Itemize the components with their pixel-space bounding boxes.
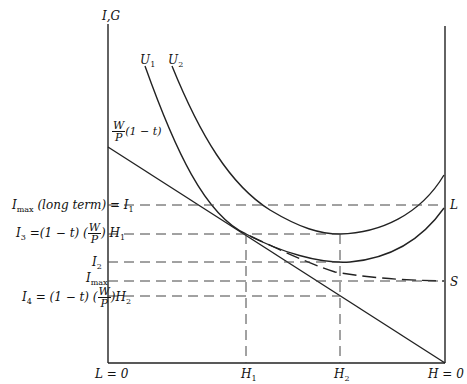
label-S: S [450,276,458,288]
indifference-curve-u1 [145,66,444,262]
y-axis-label: I,G [102,10,120,22]
u1-label: U1 [140,54,155,69]
label-h0: H = 0 [428,368,464,380]
label-l0: L = 0 [95,368,128,380]
u2-label: U2 [168,54,183,69]
label-h1: H1 [241,368,257,383]
indifference-curve-u2 [172,66,444,234]
diagram-canvas [0,0,467,384]
label-i2: I2 [92,256,102,271]
label-i4: I4 = (1 − t) (WP)H2 [22,286,131,309]
label-i3: I3 =(1 − t) (WP) H1 [16,222,125,245]
label-L: L [450,199,458,211]
label-h2: H2 [334,368,350,383]
budget-line [108,147,445,363]
budget-intercept-label: WP(1 − t) [112,120,162,143]
supply-dashed-curve [250,236,444,281]
label-i1: Imax (long term) = I1 [12,199,134,214]
